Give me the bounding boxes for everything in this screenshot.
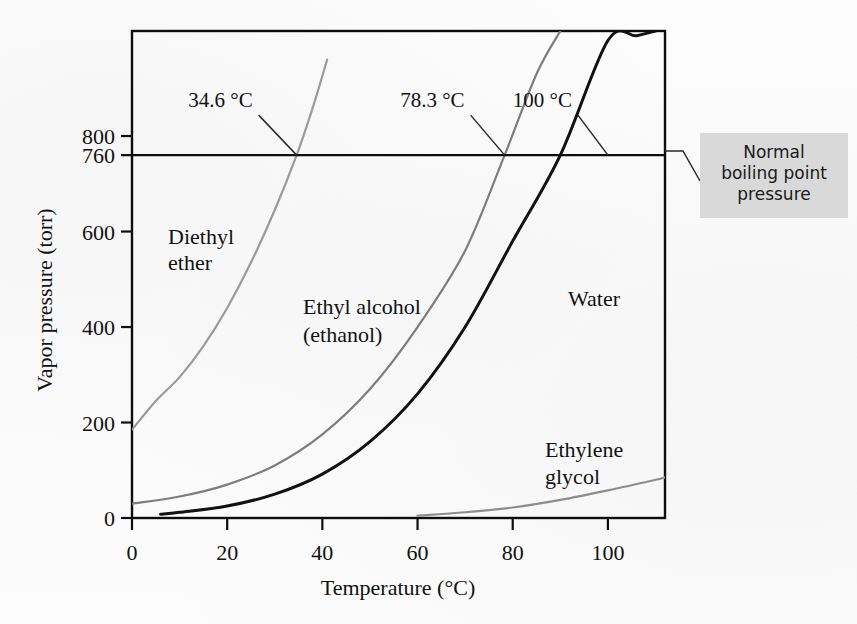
ethanol-label-line2: (ethanol) bbox=[303, 322, 382, 347]
curve-ethylene-glycol bbox=[418, 477, 665, 515]
boiling-point-leader-0 bbox=[259, 115, 297, 155]
x-tick-label-60: 60 bbox=[407, 540, 429, 565]
boiling-point-leader-2 bbox=[578, 115, 608, 155]
y-tick-label-200: 200 bbox=[82, 411, 115, 436]
x-tick-label-80: 80 bbox=[502, 540, 524, 565]
y-tick-label-0: 0 bbox=[104, 506, 115, 531]
vapor-pressure-chart: 0200400600760800 020406080100 34.6 °C78.… bbox=[0, 0, 857, 624]
x-tick-label-100: 100 bbox=[591, 540, 624, 565]
boiling-point-label-0: 34.6 °C bbox=[188, 88, 252, 112]
x-axis-ticks bbox=[132, 518, 608, 530]
x-axis-title: Temperature (°C) bbox=[321, 575, 475, 600]
y-axis-ticks bbox=[121, 136, 132, 518]
curve-label-ethylene-glycol: Ethylene glycol bbox=[545, 437, 623, 489]
callout-leader-line bbox=[665, 151, 700, 181]
water-label: Water bbox=[568, 286, 621, 311]
callout-line3: pressure bbox=[737, 184, 810, 204]
boiling-point-label-2: 100 °C bbox=[513, 88, 572, 112]
callout-line2: boiling point bbox=[721, 163, 827, 183]
curve-label-diethyl-ether: Diethyl ether bbox=[168, 224, 234, 275]
ethylene-glycol-label-line2: glycol bbox=[545, 464, 600, 489]
curve-label-water: Water bbox=[568, 286, 621, 311]
diethyl-ether-label-line1: Diethyl bbox=[168, 224, 234, 249]
x-tick-label-20: 20 bbox=[216, 540, 238, 565]
y-tick-label-800: 800 bbox=[82, 124, 115, 149]
boiling-point-annotations: 34.6 °C78.3 °C100 °C bbox=[188, 88, 608, 155]
y-tick-label-600: 600 bbox=[82, 220, 115, 245]
ethanol-label-line1: Ethyl alcohol bbox=[303, 294, 421, 319]
y-axis-tick-labels: 0200400600760800 bbox=[82, 124, 115, 531]
x-axis-tick-labels: 020406080100 bbox=[127, 540, 625, 565]
diethyl-ether-label-line2: ether bbox=[168, 250, 213, 275]
ethylene-glycol-label-line1: Ethylene bbox=[545, 437, 623, 462]
x-tick-label-40: 40 bbox=[311, 540, 333, 565]
y-tick-label-400: 400 bbox=[82, 315, 115, 340]
x-tick-label-0: 0 bbox=[127, 540, 138, 565]
vapor-pressure-figure: 0200400600760800 020406080100 34.6 °C78.… bbox=[0, 0, 857, 624]
curve-label-ethanol: Ethyl alcohol (ethanol) bbox=[303, 294, 421, 347]
y-axis-title: Vapor pressure (torr) bbox=[32, 208, 57, 391]
callout-line1: Normal bbox=[743, 142, 805, 162]
normal-boiling-point-callout: Normal boiling point pressure bbox=[665, 133, 848, 218]
boiling-point-leader-1 bbox=[471, 115, 505, 155]
boiling-point-label-1: 78.3 °C bbox=[400, 88, 464, 112]
